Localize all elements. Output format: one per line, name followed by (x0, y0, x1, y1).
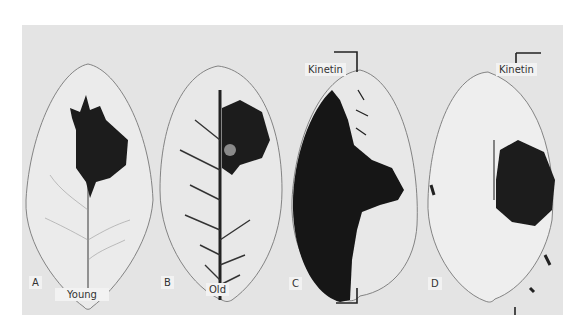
leaf-b (160, 66, 282, 302)
leaf-autoradiographs (22, 25, 563, 315)
panel-label-a: A (29, 276, 42, 289)
panel-caption-young: Young (55, 288, 109, 301)
leaf-c (292, 52, 417, 303)
panel-label-d: D (428, 277, 442, 290)
kinetin-label-c: Kinetin (305, 63, 346, 76)
panel-label-c: C (289, 277, 302, 290)
leaf-d (428, 53, 555, 315)
panel-label-b: B (161, 276, 174, 289)
figure-panel: A Young B Old C Kinetin D Kinetin (22, 25, 563, 315)
kinetin-label-d: Kinetin (496, 63, 537, 76)
leaf-a (26, 64, 153, 309)
panel-caption-old: Old (206, 283, 229, 296)
